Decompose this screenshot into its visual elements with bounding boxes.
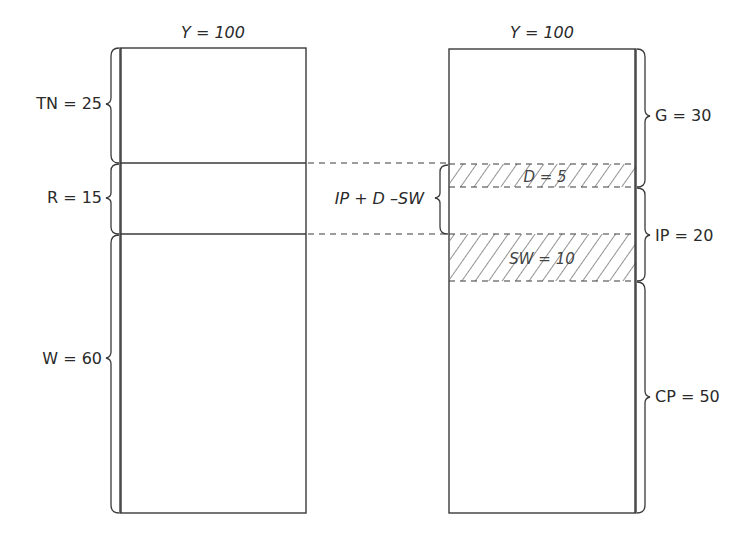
- brace-g: [637, 49, 650, 187]
- label-ip: IP = 20: [655, 226, 713, 245]
- label-g: G = 30: [655, 106, 711, 125]
- left-bar-outline: [120, 48, 306, 513]
- brace-r: [106, 164, 119, 234]
- right-bar-title: Y = 100: [510, 23, 574, 42]
- brace-w: [106, 235, 119, 513]
- left-bar-title: Y = 100: [181, 23, 245, 42]
- brace-cp: [637, 282, 650, 513]
- label-w: W = 60: [42, 349, 102, 368]
- middle-label: IP + D –SW: [335, 189, 426, 208]
- label-d: D = 5: [523, 168, 566, 186]
- national-income-diagram: Y = 100 TN = 25 R = 15 W = 60 IP + D –SW…: [0, 0, 750, 539]
- brace-tn: [106, 48, 119, 163]
- brace-ip: [637, 188, 650, 281]
- label-cp: CP = 50: [655, 387, 720, 406]
- left-bar: Y = 100 TN = 25 R = 15 W = 60: [35, 23, 306, 513]
- label-r: R = 15: [47, 188, 102, 207]
- brace-middle: [435, 165, 448, 234]
- label-tn: TN = 25: [35, 94, 102, 113]
- right-bar: Y = 100 D = 5 SW = 10 G = 30 IP = 20 CP …: [449, 23, 720, 513]
- label-sw: SW = 10: [509, 250, 575, 268]
